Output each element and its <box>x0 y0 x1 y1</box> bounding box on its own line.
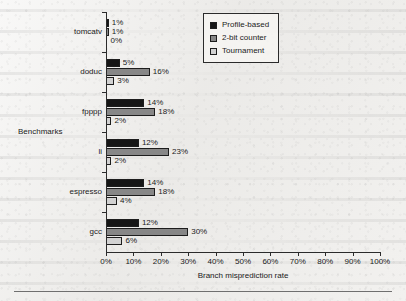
bar-fpppp-2-bit-counter <box>106 108 155 116</box>
bar-value-label: 18% <box>158 106 174 117</box>
bar-value-label: 2% <box>114 155 126 166</box>
legend-swatch-icon <box>210 48 217 55</box>
legend-label: 2-bit counter <box>222 33 266 43</box>
category-label-espresso: espresso <box>2 187 102 197</box>
bar-doduc-profile-based <box>106 59 120 67</box>
x-axis-tick <box>353 252 354 256</box>
bar-row: 14% <box>106 99 380 107</box>
y-axis-line <box>106 12 107 252</box>
bar-value-label: 0% <box>111 35 123 46</box>
bar-group: 14%18%4% <box>106 179 380 206</box>
bar-value-label: 2% <box>114 115 126 126</box>
x-axis-tick <box>380 252 381 256</box>
bar-value-label: 18% <box>158 186 174 197</box>
category-label-gcc: gcc <box>2 227 102 237</box>
x-axis-tick-label: 60% <box>262 257 278 267</box>
y-axis-tick <box>102 132 106 133</box>
bar-row: 18% <box>106 188 380 196</box>
bar-row: 16% <box>106 68 380 76</box>
bar-value-label: 3% <box>117 75 129 86</box>
x-axis-tick-label: 20% <box>153 257 169 267</box>
bar-gcc-2-bit-counter <box>106 228 188 236</box>
legend-label: Profile-based <box>222 20 269 30</box>
bar-group: 14%18%2% <box>106 99 380 126</box>
bar-value-label: 16% <box>153 66 169 77</box>
y-axis-tick <box>102 172 106 173</box>
x-axis-tick-label: 80% <box>317 257 333 267</box>
bar-row: 4% <box>106 197 380 205</box>
bar-group: 12%30%6% <box>106 219 380 246</box>
x-axis-tick <box>298 252 299 256</box>
bar-row: 14% <box>106 179 380 187</box>
x-axis-tick-label: 10% <box>125 257 141 267</box>
bar-li-profile-based <box>106 139 139 147</box>
bar-fpppp-profile-based <box>106 99 144 107</box>
bar-row: 12% <box>106 219 380 227</box>
x-axis-tick-label: 40% <box>208 257 224 267</box>
x-axis-tick <box>133 252 134 256</box>
bar-row: 30% <box>106 228 380 236</box>
x-axis-tick-label: 0% <box>100 257 112 267</box>
legend-entry-profile-based: Profile-based <box>210 19 269 31</box>
x-axis-tick <box>270 252 271 256</box>
category-label-tomcatv: tomcatv <box>2 27 102 37</box>
bar-value-label: 6% <box>125 235 137 246</box>
bar-gcc-profile-based <box>106 219 139 227</box>
bar-value-label: 30% <box>191 226 207 237</box>
bar-value-label: 12% <box>142 137 158 148</box>
x-axis-tick <box>188 252 189 256</box>
x-axis-tick-label: 70% <box>290 257 306 267</box>
bar-doduc-tournament <box>106 77 114 85</box>
x-axis-tick-label: 30% <box>180 257 196 267</box>
category-label-doduc: doduc <box>2 67 102 77</box>
x-axis-tick <box>243 252 244 256</box>
legend-entry-2-bit-counter: 2-bit counter <box>210 32 269 44</box>
bar-gcc-tournament <box>106 237 122 245</box>
x-axis-tick-label: 90% <box>345 257 361 267</box>
x-axis-title: Branch misprediction rate <box>106 271 380 281</box>
branch-misprediction-chart: tomcatvdoducfppppliespressogcc 1%1%0%5%1… <box>0 0 406 301</box>
x-axis-tick-label: 50% <box>235 257 251 267</box>
y-axis-tick <box>102 212 106 213</box>
chart-legend: Profile-based2-bit counterTournament <box>203 13 279 63</box>
category-label-li: li <box>2 147 102 157</box>
bar-value-label: 12% <box>142 217 158 228</box>
x-axis-tick <box>106 252 107 256</box>
x-axis-tick-label: 100% <box>370 257 390 267</box>
legend-label: Tournament <box>222 46 264 56</box>
bar-espresso-profile-based <box>106 179 144 187</box>
bar-row: 23% <box>106 148 380 156</box>
x-axis-tick <box>216 252 217 256</box>
bar-row: 12% <box>106 139 380 147</box>
y-axis-tick <box>102 52 106 53</box>
legend-entry-tournament: Tournament <box>210 45 269 57</box>
legend-swatch-icon <box>210 22 217 29</box>
page-footer-rule <box>14 291 392 292</box>
bar-group: 12%23%2% <box>106 139 380 166</box>
x-axis-tick <box>325 252 326 256</box>
category-label-fpppp: fpppp <box>2 107 102 117</box>
bar-row: 2% <box>106 157 380 165</box>
bar-value-label: 4% <box>120 195 132 206</box>
bar-row: 18% <box>106 108 380 116</box>
y-axis-tick <box>102 12 106 13</box>
bar-espresso-tournament <box>106 197 117 205</box>
bar-row: 3% <box>106 77 380 85</box>
bar-row: 2% <box>106 117 380 125</box>
bar-value-label: 23% <box>172 146 188 157</box>
y-axis-title: Benchmarks <box>18 127 62 137</box>
legend-swatch-icon <box>210 35 217 42</box>
x-axis-tick <box>161 252 162 256</box>
y-axis-tick <box>102 92 106 93</box>
bar-value-label: 5% <box>123 57 135 68</box>
bar-row: 6% <box>106 237 380 245</box>
